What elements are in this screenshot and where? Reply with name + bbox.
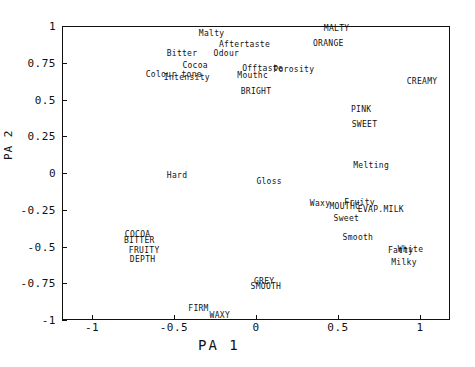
scatter-point-label: BITTER (124, 235, 155, 244)
scatter-point-label: Intensity (164, 72, 210, 81)
x-tick-mark (256, 315, 257, 320)
y-tick-label: -0.25 (0, 205, 56, 216)
scatter-point-label: Milky (391, 257, 417, 266)
scatter-point-label: MOUTHC (329, 202, 360, 211)
x-tick-mark (338, 315, 339, 320)
scatter-point-label: Mouthc (237, 71, 268, 80)
scatter-point-label: Hard (167, 171, 187, 180)
x-tick-label: -1 (62, 322, 122, 333)
y-tick-label: 0.5 (0, 95, 56, 106)
x-tick-label: 0 (226, 322, 286, 333)
x-tick-label: 1 (390, 322, 450, 333)
scatter-point-label: Sweet (334, 213, 360, 222)
y-tick-mark (62, 136, 67, 137)
scatter-point-label: DEPTH (130, 255, 156, 264)
scatter-point-label: MALTY (324, 24, 350, 33)
scatter-point-label: Waxy (310, 199, 330, 208)
x-tick-label: -0.5 (144, 322, 204, 333)
x-tick-label: 0.5 (308, 322, 368, 333)
scatter-point-label: Melting (353, 160, 389, 169)
scatter-point-label: Aftertaste (219, 40, 270, 49)
y-tick-label: 0 (0, 168, 56, 179)
y-tick-label: -0.75 (0, 278, 56, 289)
scatter-point-label: FIRM (188, 303, 208, 312)
x-tick-mark (174, 315, 175, 320)
y-tick-mark (62, 173, 67, 174)
y-tick-mark (62, 210, 67, 211)
scatter-point-label: Cocoa (182, 61, 208, 70)
y-axis-title: PA 2 (2, 130, 15, 161)
y-tick-mark (62, 283, 67, 284)
scatter-point-label: SWEET (352, 119, 378, 128)
scatter-point-label: Smooth (343, 232, 374, 241)
scatter-point-label: EVAP.MILK (358, 205, 404, 214)
y-tick-mark (62, 247, 67, 248)
y-tick-mark (62, 320, 67, 321)
y-tick-label: -0.5 (0, 242, 56, 253)
scatter-point-label: Gloss (256, 177, 282, 186)
y-tick-mark (62, 26, 67, 27)
scatter-point-label: PINK (351, 105, 371, 114)
y-tick-label: 0.75 (0, 58, 56, 69)
x-tick-mark (420, 315, 421, 320)
scatter-point-label: SMOOTH (251, 281, 282, 290)
scatter-point-label: Odour (214, 49, 240, 58)
scatter-point-label: BRIGHT (241, 87, 272, 96)
scatter-point-label: ORANGE (313, 38, 344, 47)
y-tick-label: -1 (0, 315, 56, 326)
scatter-point-label: Bitter (167, 49, 198, 58)
scatter-point-label: FRUITY (129, 246, 160, 255)
x-tick-mark (92, 315, 93, 320)
x-axis-title: PA 1 (198, 337, 240, 353)
scatter-point-label: CREAMY (407, 77, 438, 86)
y-tick-mark (62, 100, 67, 101)
scatter-point-label: Porosity (273, 65, 314, 74)
scatter-point-label: Malty (199, 28, 225, 37)
y-tick-mark (62, 63, 67, 64)
y-tick-label: 1 (0, 21, 56, 32)
scatter-point-label: WAXY (210, 310, 230, 319)
pca-biplot-figure: 10.750.50.250-0.25-0.5-0.75-1 -1-0.500.5… (0, 0, 475, 367)
scatter-point-label: White (398, 244, 424, 253)
